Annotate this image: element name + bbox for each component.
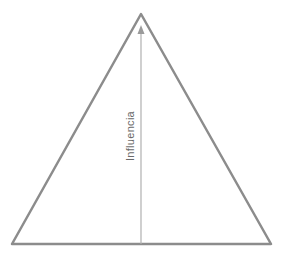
pyramid-diagram: Influencia [0,0,285,259]
arrow-up-icon [138,25,145,34]
axis-label: Influencia [124,110,136,161]
